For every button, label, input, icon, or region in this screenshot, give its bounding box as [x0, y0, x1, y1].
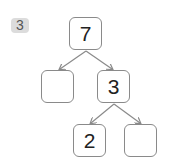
tree-node-right: 3: [97, 70, 130, 103]
arrow-root-left: [60, 51, 86, 69]
tree-node-left-empty[interactable]: [41, 70, 74, 103]
tree-node-bottom-left: 2: [73, 124, 106, 157]
arrow-mid-left: [91, 104, 114, 123]
tree-node-root: 7: [69, 17, 102, 50]
arrow-mid-right: [114, 104, 140, 123]
tree-node-bottom-right-empty[interactable]: [124, 124, 157, 157]
arrow-root-right: [86, 51, 112, 69]
